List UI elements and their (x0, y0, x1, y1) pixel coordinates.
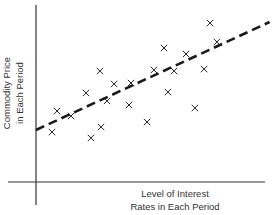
x-axis-label: Level of Interest Rates in Each Period (100, 187, 250, 213)
x-marker-icon (88, 135, 94, 141)
scatter-chart (0, 0, 280, 215)
x-marker-icon (126, 102, 132, 108)
x-marker-icon (104, 98, 110, 104)
x-marker-icon (97, 68, 103, 74)
x-marker-icon (49, 129, 55, 135)
trend-line (36, 22, 270, 130)
x-marker-icon (144, 119, 150, 125)
x-marker-icon (201, 66, 207, 72)
y-axis-label: Commodity Price in Each Period (0, 38, 34, 148)
x-marker-icon (207, 20, 213, 26)
y-axis-label-line-2: in Each Period (13, 38, 26, 148)
y-axis-label-line-1: Commodity Price (0, 38, 13, 148)
x-marker-icon (171, 68, 177, 74)
x-marker-icon (214, 39, 220, 45)
x-marker-icon (161, 45, 167, 51)
x-marker-icon (165, 89, 171, 95)
x-marker-icon (151, 67, 157, 73)
x-marker-icon (183, 51, 189, 57)
x-marker-icon (54, 108, 60, 114)
x-axis-label-line-2: Rates in Each Period (100, 200, 250, 213)
data-points (49, 20, 220, 141)
x-marker-icon (111, 81, 117, 87)
x-marker-icon (192, 105, 198, 111)
x-marker-icon (98, 124, 104, 130)
x-marker-icon (83, 90, 89, 96)
x-axis-label-line-1: Level of Interest (100, 187, 250, 200)
